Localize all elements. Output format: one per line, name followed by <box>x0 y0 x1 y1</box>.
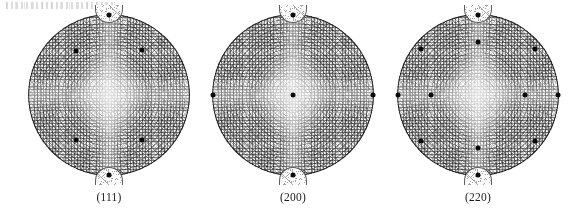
pole-bottom-marker <box>291 173 296 178</box>
pole-inner-north-marker <box>476 39 481 44</box>
pole-se-marker <box>532 139 537 144</box>
pole-nw-marker <box>419 46 424 51</box>
pole-upper-right-marker <box>140 48 145 53</box>
pole-east-marker <box>556 93 561 98</box>
pole-west-marker <box>395 93 400 98</box>
net-outer-circle <box>28 14 190 176</box>
pole-sw-marker <box>419 139 424 144</box>
pole-lower-right-marker <box>140 137 145 142</box>
pole-bottom-marker <box>107 173 112 178</box>
pole-center-marker <box>291 93 296 98</box>
pole-north-marker <box>476 12 481 17</box>
pole-figure-panel: (111)(200)(220) <box>0 0 581 216</box>
pole-south-marker <box>476 173 481 178</box>
pole-figure-220: (220) <box>397 14 559 176</box>
pole-right-marker <box>371 93 376 98</box>
pole-figure-caption: (200) <box>212 191 374 203</box>
stereographic-net <box>28 14 190 176</box>
pole-lower-left-marker <box>73 137 78 142</box>
pole-inner-south-marker <box>476 146 481 151</box>
pole-upper-left-marker <box>73 49 78 54</box>
pole-inner-east-marker <box>522 93 527 98</box>
pole-figure-200: (200) <box>212 14 374 176</box>
pole-inner-west-marker <box>429 93 434 98</box>
pole-figure-caption: (220) <box>397 191 559 203</box>
pole-figure-caption: (111) <box>28 191 190 203</box>
pole-top-marker <box>107 12 112 17</box>
pole-top-marker <box>291 12 296 17</box>
pole-ne-marker <box>532 46 537 51</box>
pole-left-marker <box>210 93 215 98</box>
pole-figure-111: (111) <box>28 14 190 176</box>
